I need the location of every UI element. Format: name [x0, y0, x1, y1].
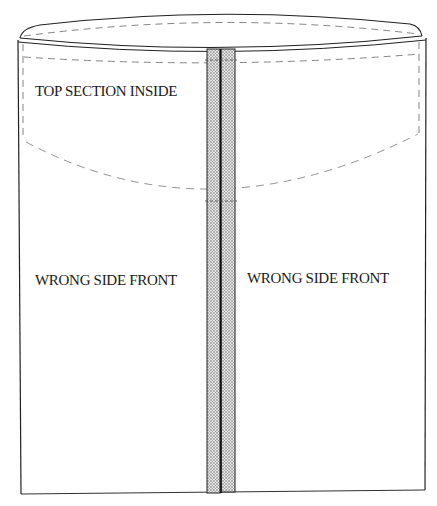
- center-seam: [205, 49, 237, 493]
- skirt-diagram: [0, 0, 437, 506]
- label-top-section: TOP SECTION INSIDE: [35, 83, 177, 100]
- label-right-wrong-side-front: WRONG SIDE FRONT: [247, 270, 389, 287]
- waistband-opening: [18, 14, 426, 51]
- label-left-wrong-side-front: WRONG SIDE FRONT: [35, 272, 177, 289]
